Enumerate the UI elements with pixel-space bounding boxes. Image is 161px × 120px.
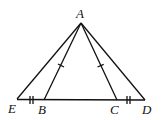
segment-AD bbox=[81, 23, 145, 100]
geometry-diagram: A E B C D bbox=[0, 0, 161, 120]
label-D: D bbox=[141, 102, 152, 117]
segment-AC bbox=[81, 23, 117, 100]
label-A: A bbox=[75, 6, 84, 21]
segment-AE bbox=[17, 23, 81, 99]
label-C: C bbox=[110, 102, 119, 117]
segment-AB bbox=[44, 23, 81, 100]
segment-ED bbox=[17, 100, 145, 101]
tick-AC bbox=[98, 62, 104, 69]
label-E: E bbox=[7, 101, 16, 116]
label-B: B bbox=[38, 102, 46, 117]
